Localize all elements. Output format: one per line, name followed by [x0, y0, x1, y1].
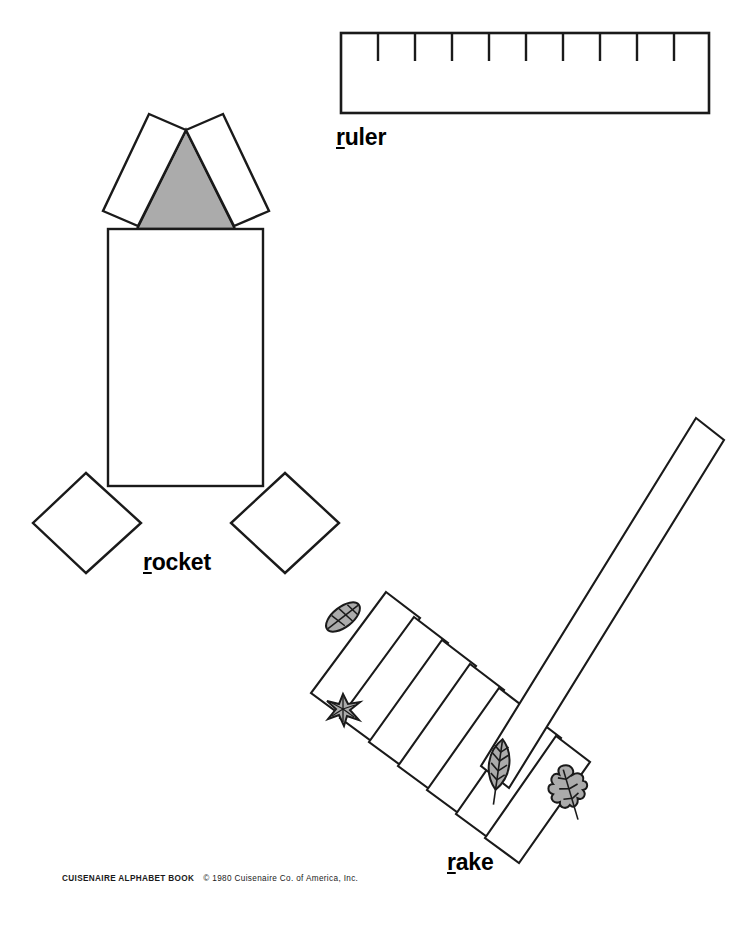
label-rocket-first-letter: r — [143, 549, 152, 575]
label-rocket: rocket — [143, 549, 211, 576]
rake-tines — [311, 592, 590, 863]
label-rake-rest: ake — [456, 849, 494, 875]
rake-figure — [311, 418, 724, 863]
rake-handle — [481, 418, 724, 788]
ruler-figure — [341, 33, 709, 113]
rocket-body — [108, 229, 263, 486]
footer-copyright: © 1980 Cuisenaire Co. of America, Inc. — [203, 874, 358, 883]
rocket-figure — [33, 114, 339, 573]
label-rake-first-letter: r — [447, 849, 456, 875]
label-ruler-rest: uler — [345, 124, 386, 150]
label-ruler-first-letter: r — [336, 124, 345, 150]
worksheet-page: ruler rocket rake CUISENAIRE ALPHABET BO… — [0, 0, 750, 929]
footer-credit: CUISENAIRE ALPHABET BOOK© 1980 Cuisenair… — [62, 874, 358, 883]
footer-title: CUISENAIRE ALPHABET BOOK — [62, 874, 194, 883]
rocket-fin-left — [33, 473, 141, 573]
rocket-fin-right — [231, 473, 339, 573]
label-ruler: ruler — [336, 124, 386, 151]
label-rocket-rest: ocket — [152, 549, 211, 575]
label-rake: rake — [447, 849, 494, 876]
